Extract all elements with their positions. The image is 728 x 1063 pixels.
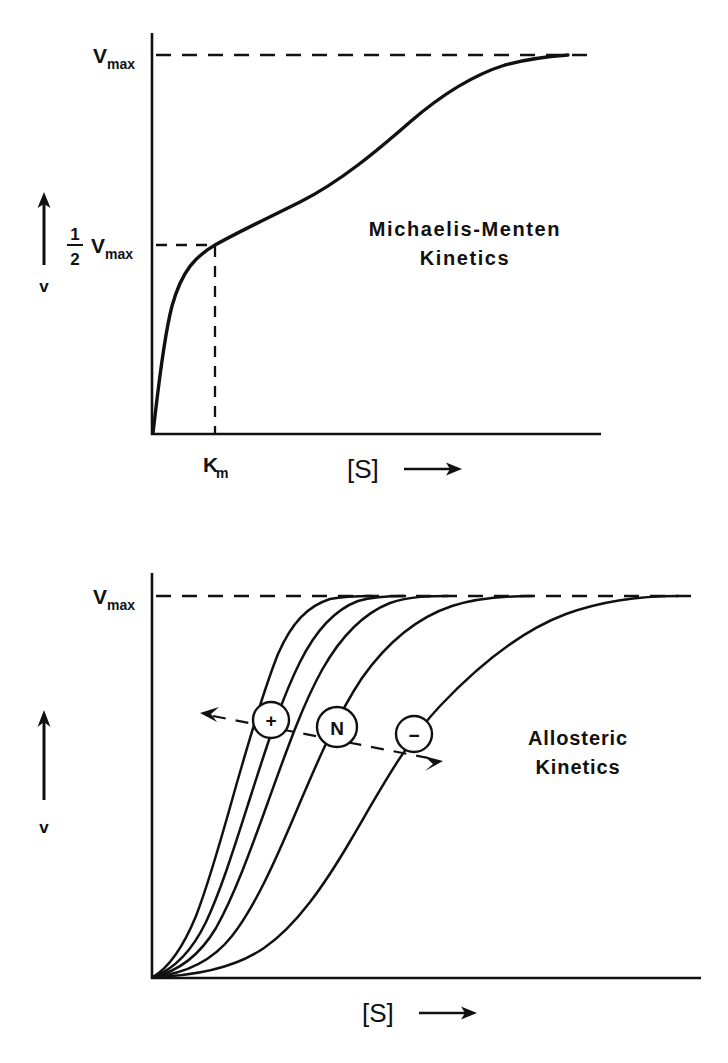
panel2-vmax-label: V max xyxy=(93,585,135,613)
panel2-title-line1: Allosteric xyxy=(528,727,628,749)
panel1-title-line1: Michaelis-Menten xyxy=(369,218,561,240)
panel1-y-axis-arrow-group xyxy=(38,192,51,265)
panel1-vmax-label-main: V xyxy=(93,44,108,67)
panel2-x-axis-label: [S] xyxy=(362,998,394,1028)
panel2-shift-arrow-head-right-icon xyxy=(424,756,443,771)
panel1-y-axis-label: v xyxy=(39,277,49,296)
panel2-marker-normal-symbol: N xyxy=(330,718,344,739)
panel2-marker-negative: − xyxy=(396,716,432,752)
panel2-vmax-label-main: V xyxy=(93,585,108,608)
panel2-curve-normal xyxy=(153,596,448,977)
panel1-x-axis-label-group: [S] xyxy=(347,454,462,484)
panel-allosteric: + N − v V max [S] Allosteric xyxy=(38,573,702,1028)
panel1-half-numerator: 1 xyxy=(70,225,79,244)
panel1-half-vmax-label: 1 2 V max xyxy=(67,225,133,269)
panel2-y-axis-label: v xyxy=(39,818,49,837)
panel-michaelis-menten: v V max 1 2 V max K m [S] Michaelis-Ment… xyxy=(38,33,602,484)
panel2-title-line2: Kinetics xyxy=(535,756,620,778)
panel1-km-label-sub: m xyxy=(216,465,228,481)
panel1-km-label: K m xyxy=(203,453,228,481)
panel2-curve-strong-positive xyxy=(153,596,372,977)
panel1-vmax-label-sub: max xyxy=(107,56,135,72)
panel2-curve-strong-negative xyxy=(153,596,678,977)
panel1-x-axis-label: [S] xyxy=(347,454,379,484)
panel2-marker-negative-symbol: − xyxy=(408,725,419,746)
enzyme-kinetics-figure: v V max 1 2 V max K m [S] Michaelis-Ment… xyxy=(0,0,728,1063)
panel1-half-denominator: 2 xyxy=(70,250,79,269)
panel2-x-axis-label-group: [S] xyxy=(362,998,477,1028)
panel2-marker-positive: + xyxy=(253,702,289,738)
panel2-vmax-label-sub: max xyxy=(107,597,135,613)
panel2-shift-arrow-head-left-icon xyxy=(200,707,219,722)
panel2-title: Allosteric Kinetics xyxy=(528,727,628,778)
figure-canvas: v V max 1 2 V max K m [S] Michaelis-Ment… xyxy=(0,0,728,1063)
panel1-title-line2: Kinetics xyxy=(420,247,511,269)
panel2-marker-positive-symbol: + xyxy=(265,710,276,731)
panel2-curve-negative xyxy=(153,596,532,977)
panel2-y-axis-arrow-group xyxy=(38,710,51,800)
panel1-half-vmax-main: V xyxy=(91,234,106,257)
panel1-title: Michaelis-Menten Kinetics xyxy=(369,218,561,269)
panel1-half-vmax-sub: max xyxy=(105,246,133,262)
panel2-marker-normal: N xyxy=(317,707,357,747)
panel1-vmax-label: V max xyxy=(93,44,135,72)
